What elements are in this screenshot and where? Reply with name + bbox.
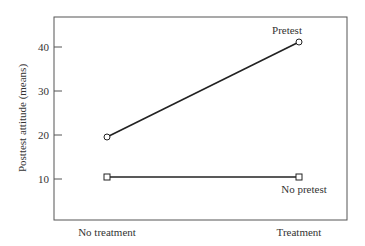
series-pretest: Pretest [104, 24, 302, 140]
y-tick-label: 40 [38, 41, 50, 53]
x-axis: No treatment Treatment [78, 226, 321, 238]
series-no-pretest: No pretest [104, 174, 327, 195]
y-axis-label: Posttest attitude (means) [16, 64, 29, 172]
series-label-no-pretest: No pretest [281, 183, 327, 195]
x-category-label: No treatment [78, 226, 136, 238]
circle-marker-icon [296, 39, 302, 45]
circle-marker-icon [104, 134, 110, 140]
square-marker-icon [296, 174, 302, 180]
y-tick-label: 10 [38, 173, 50, 185]
y-axis: 10 20 30 40 Posttest attitude (means) [16, 41, 62, 185]
chart: 10 20 30 40 Posttest attitude (means) No… [0, 0, 365, 246]
series-label-pretest: Pretest [272, 24, 302, 36]
square-marker-icon [104, 174, 110, 180]
x-category-label: Treatment [277, 226, 322, 238]
y-tick-label: 20 [38, 129, 50, 141]
y-tick-label: 30 [38, 85, 50, 97]
